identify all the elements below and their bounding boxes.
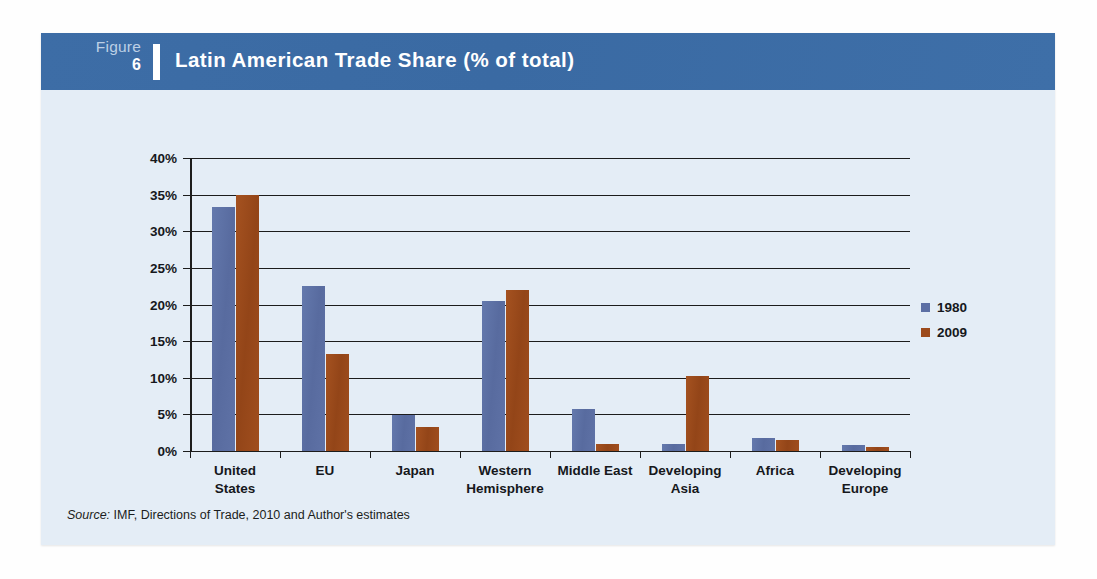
x-axis-label-line: Europe [829,480,902,498]
bar-2009-eu [326,354,349,451]
y-axis-tick-label: 10% [150,370,177,385]
x-axis-label-line: Developing [829,462,902,480]
y-axis-tick-label: 40% [150,151,177,166]
x-axis-label-western-hemisphere: WesternHemisphere [466,462,543,498]
bar-1980-developing-europe [842,445,865,451]
plot-box: 0%5%10%15%20%25%30%35%40% [190,158,910,451]
figure-number: 6 [63,57,141,74]
bar-1980-middle-east [572,409,595,451]
page-root: Figure 6 Latin American Trade Share (% o… [0,0,1097,579]
x-axis-label-line: States [214,480,256,498]
x-axis-label-line: Africa [756,462,794,480]
x-axis-tick [280,451,281,458]
figure-title: Latin American Trade Share (% of total) [175,48,575,72]
y-axis-tick-label: 20% [150,297,177,312]
legend-item-2009[interactable]: 2009 [921,320,1021,345]
x-axis-label-line: EU [316,462,335,480]
y-axis-tick-label: 0% [157,444,177,459]
x-axis-label-line: United [214,462,256,480]
y-axis-tick-label: 5% [157,407,177,422]
source-label: Source: [67,508,110,522]
bar-2009-africa [776,440,799,451]
x-axis-label-developing-europe: DevelopingEurope [829,462,902,498]
legend-item-1980[interactable]: 1980 [921,295,1021,320]
x-axis-label-line: Asia [649,480,722,498]
x-axis-label-eu: EU [316,462,335,480]
bar-2009-developing-europe [866,447,889,451]
y-axis-tick [183,195,190,196]
x-axis-label-line: Hemisphere [466,480,543,498]
bar-1980-africa [752,438,775,451]
x-axis-label-japan: Japan [395,462,434,480]
x-axis-tick [370,451,371,458]
x-axis-label-line: Middle East [557,462,632,480]
x-axis-label-line: Japan [395,462,434,480]
x-axis-tick [730,451,731,458]
chart-legend: 19802009 [921,295,1021,345]
x-axis-tick [820,451,821,458]
bar-1980-developing-asia [662,444,685,451]
legend-swatch-icon [921,303,930,312]
x-axis-label-united-states: UnitedStates [214,462,256,498]
x-axis-label-line: Developing [649,462,722,480]
x-axis-tick [550,451,551,458]
x-axis-label-line: Western [466,462,543,480]
x-axis-tick [910,451,911,458]
bars-layer [190,158,910,451]
source-note: Source: IMF, Directions of Trade, 2010 a… [67,508,410,522]
y-axis-tick [183,268,190,269]
x-axis-tick [460,451,461,458]
chart-area: 0%5%10%15%20%25%30%35%40% UnitedStatesEU… [41,90,1055,545]
bar-1980-japan [392,415,415,451]
bar-1980-eu [302,286,325,451]
bar-2009-united-states [236,195,259,451]
bar-2009-middle-east [596,444,619,451]
bar-2009-western-hemisphere [506,290,529,451]
x-axis-tick [640,451,641,458]
x-axis-tick [190,451,191,458]
y-axis-tick-label: 15% [150,334,177,349]
header-divider-rule [153,44,160,80]
y-axis-tick [183,158,190,159]
legend-label: 2009 [937,325,967,340]
x-axis-label-middle-east: Middle East [557,462,632,480]
x-axis-label-africa: Africa [756,462,794,480]
figure-header-band: Figure 6 Latin American Trade Share (% o… [41,33,1055,90]
figure-label: Figure [63,39,141,55]
legend-label: 1980 [937,300,967,315]
y-axis-tick-label: 35% [150,187,177,202]
y-axis-tick-label: 25% [150,260,177,275]
bar-1980-united-states [212,207,235,451]
y-axis-tick [183,231,190,232]
figure-card: Figure 6 Latin American Trade Share (% o… [41,33,1055,545]
x-axis-label-developing-asia: DevelopingAsia [649,462,722,498]
y-axis-tick [183,414,190,415]
bar-1980-western-hemisphere [482,301,505,451]
y-axis-tick [183,451,190,452]
source-text: IMF, Directions of Trade, 2010 and Autho… [114,508,410,522]
bar-2009-japan [416,427,439,451]
figure-marker: Figure 6 [63,39,141,85]
legend-swatch-icon [921,328,930,337]
y-axis-tick [183,341,190,342]
y-axis-tick-label: 30% [150,224,177,239]
bar-2009-developing-asia [686,376,709,451]
y-axis-tick [183,305,190,306]
y-axis-tick [183,378,190,379]
